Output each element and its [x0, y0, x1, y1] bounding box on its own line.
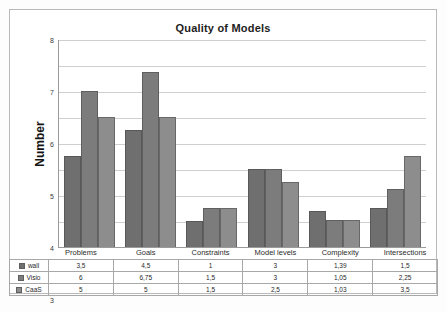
table-cell-value: 5 — [113, 284, 178, 296]
category-header: Constraints — [178, 246, 243, 260]
legend-swatch-icon — [18, 275, 24, 281]
table-cell-value: 1,39 — [308, 260, 373, 272]
y-axis-title-container: Number — [32, 40, 52, 248]
table-cell-value: 1,05 — [308, 272, 373, 284]
table-cell-value: 1,5 — [178, 272, 243, 284]
y-axis-tick-label: 8 — [50, 37, 54, 44]
legend-entry: CaaS — [10, 284, 49, 296]
category-header: Goals — [113, 246, 178, 260]
bar — [309, 211, 326, 247]
table-body: wall3,54,5131,391,5Visio66,751,531,052,2… — [10, 260, 438, 296]
bar-group — [304, 40, 365, 247]
table-cell-value: 6 — [49, 272, 114, 284]
bar — [370, 208, 387, 247]
y-axis-title: Number — [33, 121, 47, 166]
bar — [404, 156, 421, 247]
bar-group — [59, 40, 120, 247]
legend-label: wall — [28, 262, 39, 269]
legend-entry: wall — [10, 260, 49, 272]
table-cell-value: 3,5 — [373, 284, 438, 296]
table-cell-value: 3 — [243, 260, 308, 272]
table-cell-value: 2,25 — [373, 272, 438, 284]
bar-group — [243, 40, 304, 247]
table-row: Visio66,751,531,052,25 — [10, 272, 438, 284]
table-cell-value: 1,03 — [308, 284, 373, 296]
table-cell-value: 3,5 — [49, 260, 114, 272]
table-cell-value: 1,5 — [373, 260, 438, 272]
chart-data-table: ProblemsGoalsConstraintsModel levelsComp… — [9, 246, 438, 296]
y-axis-tick-label: 6 — [50, 141, 54, 148]
bar — [186, 221, 203, 247]
bar — [387, 189, 404, 248]
category-header: Problems — [49, 246, 114, 260]
bar — [142, 72, 159, 248]
table-corner-cell — [10, 246, 49, 260]
bar — [159, 117, 176, 247]
plot-area: 012345678 — [58, 40, 426, 248]
category-header: Intersections — [373, 246, 438, 260]
table-cell-value: 4,5 — [113, 260, 178, 272]
table-header-row: ProblemsGoalsConstraintsModel levelsComp… — [10, 246, 438, 260]
table-cell-value: 1 — [178, 260, 243, 272]
table-cell-value: 1,5 — [178, 284, 243, 296]
legend-entry: Visio — [10, 272, 49, 284]
chart-title: Quality of Models — [10, 22, 436, 34]
bar — [203, 208, 220, 247]
table-row: wall3,54,5131,391,5 — [10, 260, 438, 272]
bar — [248, 169, 265, 247]
y-axis-tick-label: 5 — [50, 193, 54, 200]
bar — [265, 169, 282, 247]
y-axis-tick-label: 7 — [50, 89, 54, 96]
bar — [81, 91, 98, 247]
legend-label: CaaS — [25, 286, 41, 293]
bar — [343, 220, 360, 247]
bar-series-container — [59, 40, 426, 247]
bar — [98, 117, 115, 247]
legend-swatch-icon — [16, 287, 22, 293]
bar — [64, 156, 81, 247]
table-cell-value: 2,5 — [243, 284, 308, 296]
legend-swatch-icon — [19, 263, 25, 269]
figure: Quality of Models Number 012345678 Probl… — [0, 0, 447, 312]
table-cell-value: 3 — [243, 272, 308, 284]
bar — [125, 130, 142, 247]
bar-group — [365, 40, 426, 247]
table-row: CaaS551,52,51,033,5 — [10, 284, 438, 296]
category-header: Model levels — [243, 246, 308, 260]
bar-group — [120, 40, 181, 247]
bar-group — [181, 40, 242, 247]
bar — [220, 208, 237, 247]
table-cell-value: 5 — [49, 284, 114, 296]
legend-label: Visio — [27, 274, 41, 281]
table-cell-value: 6,75 — [113, 272, 178, 284]
bar — [282, 182, 299, 247]
bar — [326, 220, 343, 247]
category-header: Complexity — [308, 246, 373, 260]
figure-caption — [0, 300, 447, 312]
